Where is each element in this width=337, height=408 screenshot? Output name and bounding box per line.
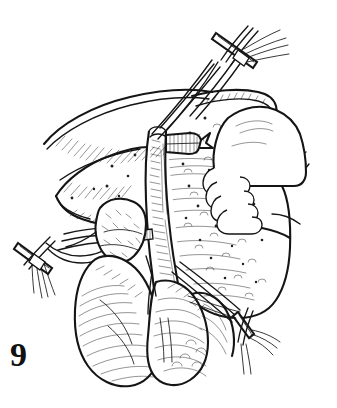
figure-number: 9 xyxy=(10,338,27,372)
adrenal-gland xyxy=(95,199,146,262)
figure-container: 9 xyxy=(0,0,337,408)
surgical-illustration xyxy=(0,0,337,408)
